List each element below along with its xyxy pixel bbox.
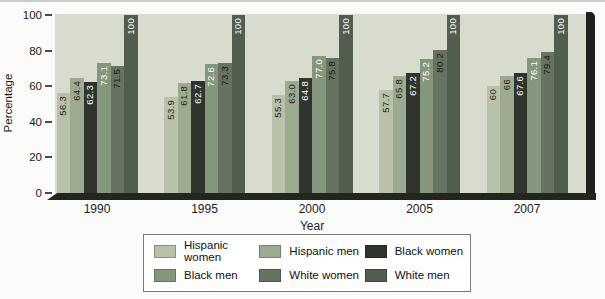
bar-hispanic-women-1990: 56.3 — [57, 93, 71, 193]
plot-right-shadow — [586, 12, 595, 200]
bar-black-men-1995: 72.6 — [205, 64, 219, 193]
bar-value-label: 76.1 — [529, 61, 539, 81]
legend-item-black-women: Black women — [365, 245, 470, 258]
bar-value-label: 61.8 — [180, 86, 190, 106]
legend-label: Hispanic women — [184, 239, 259, 263]
y-tick-80: 80 — [10, 44, 52, 58]
x-tick-label-2007: 2007 — [514, 202, 541, 216]
legend-item-black-men: Black men — [154, 269, 259, 282]
bar-value-label: 80.2 — [435, 53, 445, 73]
y-tick-100: 100 — [10, 8, 52, 22]
bar-value-label: 100 — [126, 18, 136, 35]
bar-white-men-2005: 100 — [447, 15, 461, 193]
bar-black-women-2000: 64.8 — [299, 78, 313, 193]
y-tick-20: 20 — [10, 150, 52, 164]
legend-label: Black men — [184, 269, 238, 281]
bar-value-label: 73.3 — [220, 66, 230, 86]
bar-white-women-1995: 73.3 — [218, 63, 232, 194]
x-tick-label-1990: 1990 — [84, 202, 111, 216]
bar-value-label: 60 — [489, 89, 499, 100]
bar-white-men-2007: 100 — [554, 15, 568, 193]
y-tick-mark — [45, 121, 52, 123]
bar-value-label: 57.7 — [381, 93, 391, 113]
legend-label: White men — [395, 269, 450, 281]
bar-black-men-1990: 73.1 — [97, 63, 111, 193]
bar-value-label: 71.5 — [113, 69, 123, 89]
y-tick-label: 40 — [10, 116, 42, 128]
bar-value-label: 56.3 — [59, 96, 69, 116]
legend: Hispanic womenHispanic menBlack womenBla… — [143, 234, 471, 292]
bar-value-label: 64.4 — [72, 81, 82, 101]
legend-swatch-hispanic-men — [259, 245, 281, 258]
legend-swatch-black-men — [154, 269, 176, 282]
bar-value-label: 100 — [556, 18, 566, 35]
bar-value-label: 100 — [234, 18, 244, 35]
bar-value-label: 65.8 — [395, 79, 405, 99]
bar-value-label: 67.6 — [516, 76, 526, 96]
bar-black-men-2005: 75.2 — [420, 59, 434, 193]
y-tick-label: 0 — [10, 187, 42, 199]
bar-value-label: 62.7 — [193, 84, 203, 104]
bar-white-women-1990: 71.5 — [111, 66, 125, 193]
bar-group-2007: 606667.676.179.4100 — [487, 15, 568, 193]
legend-swatch-hispanic-women — [154, 245, 176, 258]
bar-hispanic-women-2000: 55.3 — [272, 95, 286, 193]
plot-area: 56.364.462.373.171.510053.961.862.772.67… — [55, 14, 586, 193]
y-tick-60: 60 — [10, 79, 52, 93]
bar-hispanic-men-2000: 63.0 — [285, 81, 299, 193]
bar-value-label: 77.0 — [314, 59, 324, 79]
y-tick-label: 80 — [10, 45, 42, 57]
bar-white-men-1995: 100 — [232, 15, 246, 193]
y-tick-label: 60 — [10, 80, 42, 92]
legend-label: White women — [289, 269, 359, 281]
bar-hispanic-men-2007: 66 — [500, 76, 514, 194]
bar-black-women-1990: 62.3 — [84, 82, 98, 193]
bar-black-men-2000: 77.0 — [312, 56, 326, 193]
y-tick-mark — [45, 50, 52, 52]
top-rule — [0, 0, 605, 2]
bar-value-label: 62.3 — [86, 85, 96, 105]
bar-hispanic-women-1995: 53.9 — [164, 97, 178, 193]
bar-hispanic-men-1990: 64.4 — [70, 78, 84, 193]
bar-value-label: 75.2 — [422, 62, 432, 82]
bar-value-label: 67.2 — [408, 76, 418, 96]
bar-value-label: 53.9 — [166, 100, 176, 120]
legend-item-hispanic-men: Hispanic men — [259, 245, 364, 258]
bar-white-women-2007: 79.4 — [541, 52, 555, 193]
legend-item-hispanic-women: Hispanic women — [154, 239, 259, 263]
legend-swatch-white-men — [365, 269, 387, 282]
bar-group-2000: 55.363.064.877.075.8100 — [272, 15, 353, 193]
x-tick-label-2005: 2005 — [406, 202, 433, 216]
legend-label: Hispanic men — [289, 245, 359, 257]
bar-black-women-1995: 62.7 — [191, 81, 205, 193]
legend-item-white-women: White women — [259, 269, 364, 282]
bar-group-1995: 53.961.862.772.673.3100 — [164, 15, 245, 193]
bar-black-men-2007: 76.1 — [527, 58, 541, 194]
y-tick-40: 40 — [10, 115, 52, 129]
bar-value-label: 79.4 — [543, 55, 553, 75]
y-tick-mark — [45, 14, 52, 16]
wage-gap-bar-chart: 56.364.462.373.171.510053.961.862.772.67… — [0, 0, 605, 299]
bar-hispanic-women-2005: 57.7 — [379, 90, 393, 193]
bar-value-label: 55.3 — [274, 98, 284, 118]
bar-value-label: 100 — [341, 18, 351, 35]
y-tick-0: 0 — [10, 186, 52, 200]
legend-item-white-men: White men — [365, 269, 470, 282]
bar-value-label: 100 — [449, 18, 459, 35]
bar-hispanic-women-2007: 60 — [487, 86, 501, 193]
y-tick-label: 100 — [10, 9, 42, 21]
bar-value-label: 63.0 — [287, 84, 297, 104]
y-tick-label: 20 — [10, 151, 42, 163]
bar-black-women-2007: 67.6 — [514, 73, 528, 193]
legend-swatch-white-women — [259, 269, 281, 282]
bar-white-men-2000: 100 — [339, 15, 353, 193]
bar-value-label: 64.8 — [301, 81, 311, 101]
bar-black-women-2005: 67.2 — [406, 73, 420, 193]
y-tick-mark — [45, 192, 52, 194]
legend-label: Black women — [395, 245, 463, 257]
x-tick-label-2000: 2000 — [299, 202, 326, 216]
bar-value-label: 72.6 — [207, 67, 217, 87]
bar-value-label: 75.8 — [328, 61, 338, 81]
bar-hispanic-men-1995: 61.8 — [178, 83, 192, 193]
bar-white-women-2000: 75.8 — [326, 58, 340, 193]
